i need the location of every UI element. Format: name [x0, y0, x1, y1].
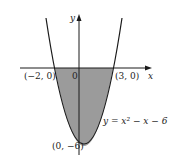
x-axis-arrow-icon: [145, 66, 152, 71]
x-axis-label: x: [148, 71, 153, 81]
y-axis-arrow-icon: [77, 14, 82, 21]
origin-label: 0: [72, 71, 78, 81]
parabola-diagram: y x 0 (−2, 0) (3, 0) (0, −6) y = x² − x …: [0, 0, 175, 164]
y-axis-label: y: [69, 13, 76, 23]
point-label-left-root: (−2, 0): [24, 71, 56, 81]
point-label-vertex: (0, −6): [52, 141, 84, 151]
equation-label: y = x² − x − 6: [102, 116, 168, 126]
point-label-right-root: (3, 0): [115, 71, 139, 81]
